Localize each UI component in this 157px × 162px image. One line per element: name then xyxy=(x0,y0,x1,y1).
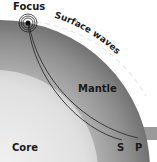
s-wave-label: S xyxy=(117,142,124,153)
p-wave-label: P xyxy=(135,142,142,153)
core-label: Core xyxy=(12,142,38,153)
focus-label: Focus xyxy=(13,1,45,12)
earth-cross-section-diagram: Focus Surface waves Mantle Core S P xyxy=(0,0,157,162)
mantle-label: Mantle xyxy=(78,83,117,94)
